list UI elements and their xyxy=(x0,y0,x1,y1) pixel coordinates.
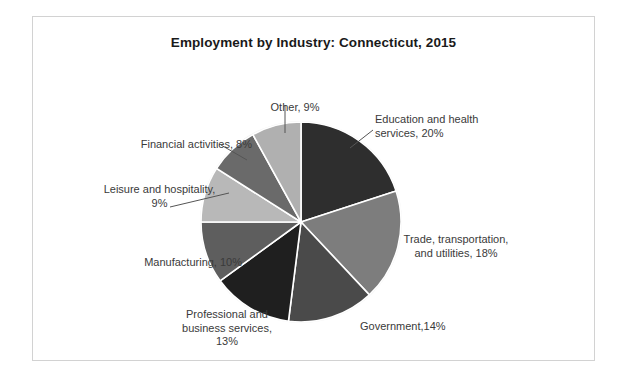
pie-label-leisure-and-hospitality: Leisure and hospitality, 9% xyxy=(87,183,232,210)
pie-label-financial-activities: Financial activities, 8% xyxy=(107,138,252,152)
pie-label-trade-transportation-and-utilities: Trade, transportation, and utilities, 18… xyxy=(396,233,516,260)
pie-label-manufacturing: Manufacturing, 10% xyxy=(107,256,242,270)
pie-label-other: Other, 9% xyxy=(245,101,345,115)
pie-label-professional-and-business-services: Professional and business services, 13% xyxy=(162,308,292,349)
chart-frame: Employment by Industry: Connecticut, 201… xyxy=(32,16,595,361)
pie-slices xyxy=(201,122,401,322)
pie-label-education-and-health-services: Education and health services, 20% xyxy=(375,113,505,140)
pie-label-government: Government,14% xyxy=(360,320,480,334)
